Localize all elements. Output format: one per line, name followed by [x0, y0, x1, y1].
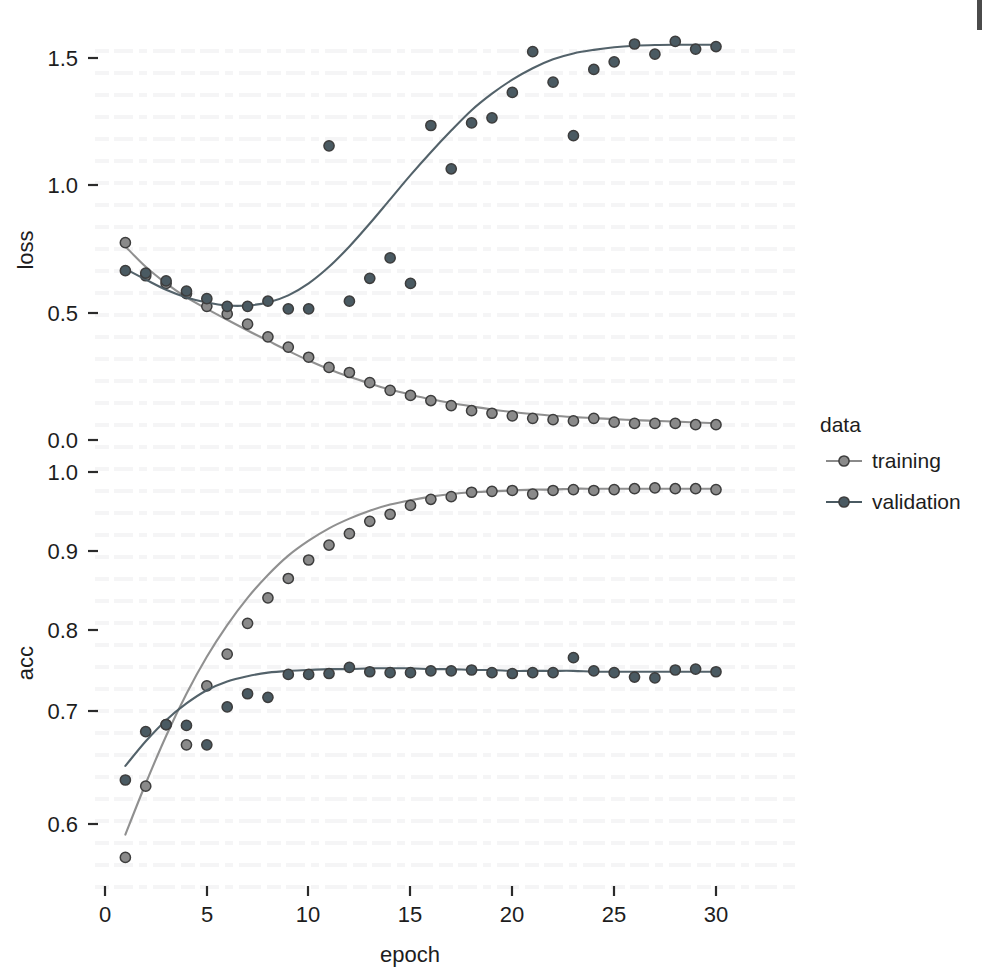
loss-validation-point — [405, 278, 415, 288]
acc-training-point — [528, 489, 538, 499]
loss-training-point — [365, 378, 375, 388]
acc-training-point — [120, 852, 130, 862]
acc-training-point — [568, 485, 578, 495]
legend-label-validation: validation — [872, 490, 961, 513]
legend-key-validation-icon — [826, 497, 862, 507]
loss-training-point — [405, 390, 415, 400]
loss-validation-point — [283, 304, 293, 314]
x-tick-labels: 0 5 10 15 20 25 30 — [99, 902, 728, 927]
acc-validation-point — [242, 689, 252, 699]
acc-training-point — [467, 487, 477, 497]
acc-ytick-4: 1.0 — [47, 460, 78, 485]
xtick-2: 10 — [296, 902, 320, 927]
loss-validation-point — [202, 294, 212, 304]
loss-ytick-1: 0.5 — [47, 301, 78, 326]
loss-validation-point — [324, 141, 334, 151]
acc-training-point — [589, 485, 599, 495]
acc-training-point — [711, 485, 721, 495]
loss-validation-point — [609, 57, 619, 67]
chart-figure: 1.5 1.0 0.5 0.0 loss 1.0 0.9 0.8 0.7 0.6 — [0, 0, 982, 979]
loss-validation-point — [141, 268, 151, 278]
loss-ytick-2: 1.0 — [47, 173, 78, 198]
loss-validation-point — [263, 296, 273, 306]
acc-validation-point — [487, 668, 497, 678]
legend-item-training[interactable]: training — [826, 449, 941, 472]
loss-ytick-0: 0.0 — [47, 428, 78, 453]
xtick-3: 15 — [398, 902, 422, 927]
loss-training-point — [467, 406, 477, 416]
loss-validation-point — [426, 120, 436, 130]
acc-panel-data — [120, 483, 721, 863]
legend-item-validation[interactable]: validation — [826, 490, 961, 513]
loss-validation-point — [568, 131, 578, 141]
loss-training-point — [609, 417, 619, 427]
loss-training-point — [629, 418, 639, 428]
acc-training-point — [344, 529, 354, 539]
legend-label-training: training — [872, 449, 941, 472]
acc-training-point — [385, 509, 395, 519]
acc-validation-point — [324, 668, 334, 678]
acc-training-point — [650, 483, 660, 493]
loss-validation-point — [589, 64, 599, 74]
loss-validation-point — [487, 113, 497, 123]
loss-validation-point — [629, 39, 639, 49]
loss-training-point — [426, 395, 436, 405]
acc-validation-point — [283, 669, 293, 679]
acc-validation-point — [202, 740, 212, 750]
loss-axis-title: loss — [13, 230, 38, 269]
xtick-5: 25 — [602, 902, 626, 927]
acc-validation-point — [548, 668, 558, 678]
acc-validation-point — [365, 667, 375, 677]
loss-training-point — [120, 238, 130, 248]
loss-validation-point — [467, 118, 477, 128]
acc-validation-point — [344, 662, 354, 672]
acc-validation-point — [711, 667, 721, 677]
acc-ytick-3: 0.9 — [47, 539, 78, 564]
acc-validation-point — [629, 672, 639, 682]
acc-validation-smooth-line — [125, 668, 716, 766]
loss-training-point — [548, 415, 558, 425]
acc-validation-point — [670, 665, 680, 675]
acc-validation-point — [405, 668, 415, 678]
acc-training-point — [670, 484, 680, 494]
legend-key-point — [839, 456, 849, 466]
acc-validation-point — [650, 673, 660, 683]
acc-training-point — [242, 618, 252, 628]
xtick-4: 20 — [500, 902, 524, 927]
acc-training-point — [283, 573, 293, 583]
acc-validation-point — [467, 665, 477, 675]
loss-validation-point — [304, 304, 314, 314]
acc-training-point — [691, 484, 701, 494]
acc-validation-point — [426, 666, 436, 676]
acc-ytick-1: 0.7 — [47, 699, 78, 724]
loss-validation-point — [120, 266, 130, 276]
loss-panel-data — [120, 36, 721, 429]
acc-training-point — [222, 649, 232, 659]
acc-validation-point — [161, 719, 171, 729]
loss-training-point — [507, 411, 517, 421]
loss-training-point — [446, 401, 456, 411]
acc-validation-point — [507, 668, 517, 678]
loss-validation-point — [711, 41, 721, 51]
legend: data training validation — [820, 413, 961, 513]
loss-training-smooth-line — [125, 246, 716, 423]
epoch-axis-title: epoch — [380, 942, 440, 967]
loss-training-point — [568, 416, 578, 426]
acc-training-point — [487, 486, 497, 496]
loss-training-point — [344, 367, 354, 377]
acc-training-point — [629, 484, 639, 494]
acc-training-point — [181, 740, 191, 750]
legend-key-point — [839, 497, 849, 507]
loss-y-tick-labels: 1.5 1.0 0.5 0.0 — [47, 46, 78, 453]
acc-validation-point — [528, 668, 538, 678]
loss-validation-point — [242, 301, 252, 311]
acc-ytick-0: 0.6 — [47, 812, 78, 837]
acc-training-point — [365, 516, 375, 526]
loss-validation-point — [365, 273, 375, 283]
loss-validation-point — [181, 286, 191, 296]
acc-validation-point — [609, 668, 619, 678]
acc-training-point — [507, 485, 517, 495]
loss-training-point — [283, 342, 293, 352]
acc-training-point — [324, 540, 334, 550]
acc-validation-point — [263, 692, 273, 702]
